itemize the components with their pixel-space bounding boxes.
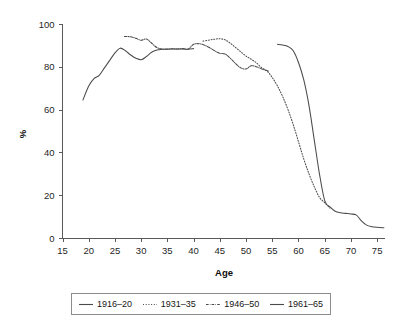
legend-entry-3[interactable]: 1961–65 <box>270 299 323 309</box>
legend-label: 1946–50 <box>224 299 259 309</box>
line-chart-plot: 020406080100 15202530354045505560657075 … <box>0 0 402 329</box>
x-tick-label: 35 <box>162 245 173 256</box>
series-line-1916-20 <box>278 44 384 227</box>
x-tick-label: 25 <box>110 245 121 256</box>
series-line-1946-50 <box>124 36 268 71</box>
chart-container: 020406080100 15202530354045505560657075 … <box>0 0 402 329</box>
x-tick-label: 20 <box>83 245 94 256</box>
x-tick-label: 50 <box>241 245 252 256</box>
chart-legend: 1916–201931–351946–501961–65 <box>71 293 331 315</box>
x-tick-label: 75 <box>372 245 383 256</box>
y-tick-label: 40 <box>44 147 55 158</box>
x-tick-label: 55 <box>267 245 278 256</box>
legend-entry-0[interactable]: 1916–20 <box>79 299 132 309</box>
y-tick-label: 20 <box>44 190 55 201</box>
legend-label: 1931–35 <box>161 299 196 309</box>
y-tick-group: 020406080100 <box>39 19 63 244</box>
x-tick-label: 30 <box>136 245 147 256</box>
y-tick-label: 100 <box>39 19 55 30</box>
x-tick-label: 65 <box>319 245 330 256</box>
legend-label: 1916–20 <box>97 299 132 309</box>
y-axis-title: % <box>17 129 28 138</box>
x-tick-label: 60 <box>293 245 304 256</box>
series-line-1931-35 <box>203 39 330 208</box>
axes-group <box>63 24 386 239</box>
legend-line-swatch-icon <box>270 301 284 308</box>
y-tick-label: 80 <box>44 61 55 72</box>
y-tick-label: 60 <box>44 104 55 115</box>
series-line-1961-65 <box>83 48 194 100</box>
x-axis-title: Age <box>215 267 233 278</box>
x-tick-label: 40 <box>188 245 199 256</box>
legend-line-swatch-icon <box>79 301 93 308</box>
y-tick-label: 0 <box>49 233 54 244</box>
legend-line-swatch-icon <box>206 301 220 308</box>
x-tick-label: 45 <box>215 245 226 256</box>
x-tick-label: 70 <box>346 245 357 256</box>
legend-entry-1[interactable]: 1931–35 <box>143 299 196 309</box>
x-tick-group: 15202530354045505560657075 <box>57 238 382 256</box>
legend-line-swatch-icon <box>143 301 157 308</box>
legend-entry-2[interactable]: 1946–50 <box>206 299 259 309</box>
data-series-group <box>83 36 384 227</box>
legend-label: 1961–65 <box>288 299 323 309</box>
x-tick-label: 15 <box>57 245 68 256</box>
